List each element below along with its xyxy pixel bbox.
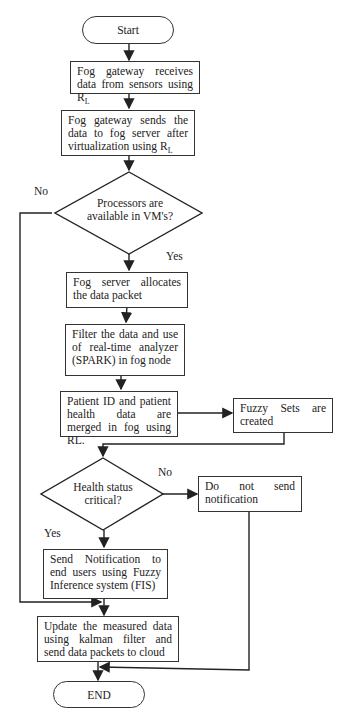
step-notify-text: Send Notification to end users using Fuz…	[50, 553, 161, 591]
step-fuzzy-sets-box: Fuzzy Sets are created	[233, 398, 333, 433]
step-update-text: Update the measured data using kalman fi…	[44, 620, 172, 658]
start-terminal: Start	[82, 16, 174, 44]
step-allocate-box: Fog server allocates the data packet	[66, 272, 188, 308]
step-no-notify-box: Do not send notification	[198, 476, 302, 512]
step-filter-box: Filter the data and use of real-time ana…	[65, 324, 185, 376]
end-terminal: END	[53, 681, 145, 708]
step-no-notify-text: Do not send notification	[205, 480, 295, 505]
step-fuzzy-sets-text: Fuzzy Sets are created	[240, 402, 326, 427]
step-merge-box: Patient ID and patient health data are m…	[60, 391, 178, 437]
subscript-l: L	[168, 146, 173, 155]
step-receive-box: Fog gateway receives data from sensors u…	[70, 61, 200, 94]
health-no-label: No	[158, 466, 172, 478]
health-yes-label: Yes	[44, 527, 61, 539]
subscript-l: L	[85, 97, 90, 106]
processors-yes-label: Yes	[166, 250, 183, 262]
step-allocate-text: Fog server allocates the data packet	[73, 276, 181, 301]
start-label: Start	[117, 24, 139, 36]
step-notify-box: Send Notification to end users using Fuz…	[43, 549, 168, 599]
decision-health-text: Health status critical?	[68, 481, 138, 507]
step-update-box: Update the measured data using kalman fi…	[37, 616, 179, 662]
step-filter-text: Filter the data and use of real-time ana…	[72, 328, 178, 366]
decision-processors-text: Processors are available in VM's?	[85, 197, 175, 223]
end-label: END	[87, 689, 111, 701]
step-send-server-box: Fog gateway sends the data to fog server…	[61, 110, 195, 156]
processors-no-label: No	[34, 185, 48, 197]
